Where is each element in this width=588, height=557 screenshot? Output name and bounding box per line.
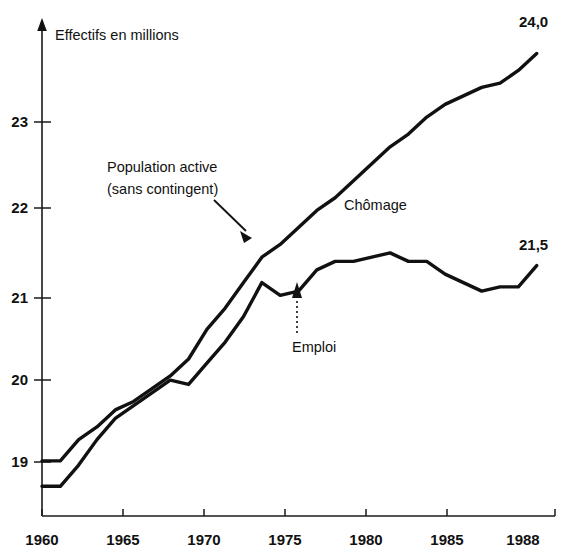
population-active-annotation-line1: Population active (107, 159, 217, 175)
population-active-annotation-line2: (sans contingent) (107, 181, 218, 197)
emploi-annotation: Emploi (292, 282, 336, 355)
y-axis-arrow-icon (37, 18, 47, 31)
chomage-annotation-label: Chômage (344, 197, 407, 213)
x-tick-label-1988: 1988 (506, 531, 539, 548)
emploi-annotation-label: Emploi (292, 339, 336, 355)
x-tick-label-1980: 1980 (349, 531, 382, 548)
series-line-emploi (42, 253, 537, 486)
line-chart: 19 20 21 22 23 1960 1965 1970 1975 1980 … (0, 0, 588, 557)
end-label-population-active: 24,0 (519, 13, 548, 30)
x-axis (42, 509, 555, 516)
series-line-population-active (42, 53, 537, 460)
chart-container: 19 20 21 22 23 1960 1965 1970 1975 1980 … (0, 0, 588, 557)
y-axis (37, 18, 47, 516)
y-tick-label-22: 22 (11, 199, 28, 216)
population-active-annotation: Population active (sans contingent) (107, 159, 252, 243)
y-tick-label-20: 20 (11, 371, 28, 388)
y-tick-label-23: 23 (11, 113, 28, 130)
x-tick-label-1985: 1985 (430, 531, 463, 548)
x-tick-label-1960: 1960 (25, 531, 58, 548)
y-tick-label-19: 19 (11, 453, 28, 470)
x-tick-label-1970: 1970 (187, 531, 220, 548)
x-tick-label-1965: 1965 (106, 531, 139, 548)
population-active-arrow-line (214, 200, 246, 231)
y-tick-label-21: 21 (11, 289, 28, 306)
population-active-arrow-icon (240, 231, 252, 243)
y-axis-title: Effectifs en millions (55, 27, 179, 43)
x-tick-label-1975: 1975 (268, 531, 301, 548)
end-label-emploi: 21,5 (519, 236, 548, 253)
chomage-annotation: Chômage (344, 197, 407, 213)
